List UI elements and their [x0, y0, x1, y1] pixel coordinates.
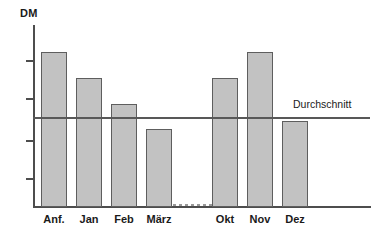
- x-axis-category-label: Jan: [76, 213, 102, 225]
- y-axis-tick-0: [26, 60, 34, 62]
- y-axis-unit-label: DM: [20, 7, 38, 19]
- average-line-label: Durchschnitt: [293, 98, 351, 110]
- y-axis-tick-3: [26, 178, 34, 180]
- series-break-dashed-line: [173, 204, 212, 206]
- bar: [247, 52, 273, 207]
- x-axis-category-label: Feb: [111, 213, 137, 225]
- bar: [41, 52, 67, 207]
- bar: [212, 78, 238, 207]
- x-axis-category-label: Nov: [246, 213, 274, 225]
- y-axis-tick-1: [26, 98, 34, 100]
- x-axis-category-label: Anf.: [41, 213, 67, 225]
- x-axis-category-label: März: [143, 213, 175, 225]
- y-axis-tick-2: [26, 140, 34, 142]
- bar-chart-figure: DM Durchschnitt Anf.JanFebMärzOktNovDez: [0, 0, 382, 245]
- average-reference-line: [33, 117, 370, 119]
- bar: [146, 129, 172, 207]
- bar: [282, 121, 308, 207]
- x-axis-category-label: Dez: [282, 213, 308, 225]
- bar: [111, 104, 137, 207]
- x-axis-category-label: Okt: [212, 213, 238, 225]
- bar: [76, 78, 102, 207]
